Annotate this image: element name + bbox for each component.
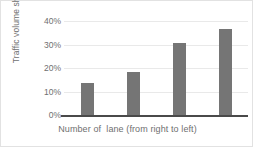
y-tick-label: 30% (31, 40, 61, 50)
bar-series (64, 21, 248, 115)
y-axis-tick-labels: 40% 30% 20% 10% 0% (29, 21, 61, 115)
bar-slot (110, 21, 156, 115)
chart-container: Traffic volume share 40% 30% 20% 10% 0% … (0, 0, 253, 147)
bar-slot (156, 21, 202, 115)
bar-slot (202, 21, 248, 115)
bar[interactable] (81, 83, 94, 115)
bar[interactable] (173, 43, 186, 115)
bar[interactable] (219, 29, 232, 115)
y-tick-label: 0% (31, 110, 61, 120)
y-tick-label: 10% (31, 87, 61, 97)
bar-slot (64, 21, 110, 115)
y-tick-label: 20% (31, 63, 61, 73)
x-axis-title: Number of lane (from right to left) (1, 124, 254, 134)
y-tick-label: 40% (31, 16, 61, 26)
y-axis-title: Traffic volume share (11, 0, 25, 74)
x-axis-line (61, 115, 248, 117)
bar[interactable] (127, 72, 140, 115)
